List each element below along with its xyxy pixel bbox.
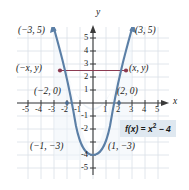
x-tick-1: 1: [103, 105, 107, 114]
x-tick-neg5: -5: [22, 105, 29, 114]
point-label-1-neg3: (1, −3): [108, 142, 135, 152]
y-tick-3: 3: [84, 59, 88, 68]
y-tick-1: 1: [84, 85, 88, 94]
x-tick-neg4: -4: [35, 105, 42, 114]
x-tick-3: 3: [129, 105, 133, 114]
graph-figure: x y -5 -4 -3 -2 -1 1 2 3 4 5 5 4 3 2 1 -…: [0, 0, 189, 190]
point-marker-neg-x-y: [58, 68, 62, 72]
y-tick-neg5: -5: [81, 163, 88, 172]
point-label-neg1-neg3: (−1, −3): [30, 142, 63, 152]
point-label-x-y: (x, y): [129, 64, 149, 74]
point-label-neg3-5: (−3, 5): [18, 26, 45, 36]
y-tick-neg4: -4: [81, 150, 88, 159]
function-label-prefix: f(x) = x: [125, 124, 153, 134]
x-axis-arrow: [161, 100, 169, 106]
x-tick-5: 5: [155, 105, 159, 114]
x-tick-2: 2: [116, 105, 120, 114]
point-label-neg-x-y: (−x, y): [16, 64, 42, 74]
function-label: f(x) = x2 − 4: [120, 120, 176, 137]
function-label-suffix: − 4: [156, 124, 170, 134]
y-axis-arrow: [90, 25, 96, 33]
y-tick-5: 5: [84, 33, 88, 42]
point-marker-x-y: [124, 68, 128, 72]
x-tick-neg2: -2: [61, 105, 68, 114]
y-tick-4: 4: [84, 46, 88, 55]
point-label-2-0: (2, 0): [117, 87, 138, 97]
point-label-3-5: (3, 5): [135, 26, 156, 36]
y-tick-neg2: -2: [81, 124, 88, 133]
x-axis-label: x: [173, 97, 177, 107]
y-tick-2: 2: [84, 72, 88, 81]
point-label-neg2-0: (−2, 0): [34, 87, 61, 97]
x-tick-neg3: -3: [48, 105, 55, 114]
y-axis-label: y: [96, 8, 100, 18]
x-tick-4: 4: [142, 105, 146, 114]
y-tick-neg1: -1: [81, 111, 88, 120]
